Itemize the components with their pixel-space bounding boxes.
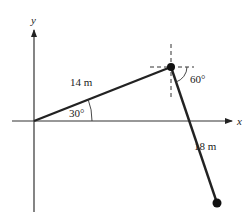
junction-point: [167, 63, 175, 71]
vector-diagram: y x 14 m 30° 18 m 60°: [0, 0, 249, 224]
angle-30-label: 30°: [69, 107, 84, 119]
angle-arc-30: [88, 99, 92, 121]
x-axis-label: x: [236, 115, 242, 127]
vector-14m: [34, 67, 171, 121]
y-axis-label: y: [30, 14, 36, 26]
angle-60-label: 60°: [190, 73, 205, 85]
end-point: [213, 199, 222, 208]
vector-18m: [171, 67, 217, 203]
angle-arc-60: [176, 67, 187, 82]
vector-18m-label: 18 m: [194, 140, 217, 152]
vector-14m-label: 14 m: [70, 76, 93, 88]
